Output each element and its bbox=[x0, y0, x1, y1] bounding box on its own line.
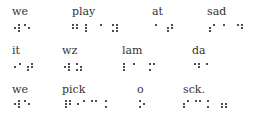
braille-dot-icon bbox=[221, 106, 223, 108]
braille-dot-icon bbox=[91, 100, 93, 102]
braille-dot-icon bbox=[28, 103, 30, 105]
braille-dot-icon bbox=[72, 27, 74, 29]
braille-dot-icon bbox=[19, 63, 21, 65]
braille-dot-icon bbox=[149, 63, 151, 65]
braille-dot-icon bbox=[18, 30, 20, 32]
word-label: play bbox=[72, 6, 95, 17]
braille-dot-icon bbox=[223, 24, 225, 26]
word-label: wz bbox=[62, 45, 77, 56]
braille-dot-icon bbox=[207, 100, 209, 102]
braille-dot-icon bbox=[241, 27, 243, 29]
braille-dot-icon bbox=[14, 27, 16, 29]
braille-dot-icon bbox=[183, 106, 185, 108]
word-label: we bbox=[12, 84, 28, 95]
braille-dot-icon bbox=[167, 27, 169, 29]
braille-dot-icon bbox=[27, 69, 29, 71]
braille-dot-icon bbox=[221, 103, 223, 105]
braille-dot-icon bbox=[76, 63, 78, 65]
braille-dot-icon bbox=[116, 30, 118, 32]
braille-dot-icon bbox=[195, 100, 197, 102]
braille-dot-icon bbox=[112, 30, 114, 32]
braille-dot-icon bbox=[65, 106, 67, 108]
braille-dot-icon bbox=[167, 30, 169, 32]
braille-dot-icon bbox=[76, 27, 78, 29]
braille-dot-icon bbox=[123, 63, 125, 65]
braille-dot-icon bbox=[116, 24, 118, 26]
braille-dot-icon bbox=[116, 27, 118, 29]
braille-dot-icon bbox=[80, 66, 82, 68]
word-label: o bbox=[137, 84, 144, 95]
braille-dot-icon bbox=[139, 106, 141, 108]
word-label: at bbox=[152, 6, 163, 17]
word-label: we bbox=[12, 6, 28, 17]
braille-dot-icon bbox=[27, 66, 29, 68]
braille-dot-icon bbox=[100, 24, 102, 26]
braille-dot-icon bbox=[28, 27, 30, 29]
braille-dot-icon bbox=[65, 100, 67, 102]
braille-dot-icon bbox=[24, 100, 26, 102]
braille-dot-icon bbox=[143, 103, 145, 105]
braille-dot-icon bbox=[149, 69, 151, 71]
braille-dot-icon bbox=[183, 103, 185, 105]
braille-dot-icon bbox=[206, 63, 208, 65]
braille-dot-icon bbox=[85, 27, 87, 29]
braille-dot-icon bbox=[68, 69, 70, 71]
braille-dot-icon bbox=[105, 106, 107, 108]
braille-dot-icon bbox=[85, 30, 87, 32]
braille-dot-icon bbox=[77, 103, 79, 105]
word-label: da bbox=[192, 45, 206, 56]
braille-dot-icon bbox=[14, 103, 16, 105]
braille-dot-icon bbox=[69, 100, 71, 102]
braille-dot-icon bbox=[155, 24, 157, 26]
braille-dot-icon bbox=[14, 66, 16, 68]
braille-dot-icon bbox=[171, 27, 173, 29]
braille-dot-icon bbox=[112, 24, 114, 26]
braille-dot-icon bbox=[153, 63, 155, 65]
braille-dot-icon bbox=[198, 66, 200, 68]
braille-dot-icon bbox=[76, 24, 78, 26]
braille-dot-icon bbox=[31, 66, 33, 68]
braille-dot-icon bbox=[194, 63, 196, 65]
braille-dot-icon bbox=[31, 63, 33, 65]
braille-dot-icon bbox=[123, 69, 125, 71]
braille-dot-icon bbox=[209, 30, 211, 32]
word-label: pick bbox=[62, 84, 85, 95]
braille-dot-icon bbox=[65, 103, 67, 105]
braille-dot-icon bbox=[133, 63, 135, 65]
word-label: it bbox=[12, 45, 20, 56]
braille-dot-icon bbox=[18, 27, 20, 29]
braille-dot-icon bbox=[69, 103, 71, 105]
braille-dot-icon bbox=[83, 100, 85, 102]
word-label: lam bbox=[122, 45, 143, 56]
braille-dot-icon bbox=[18, 103, 20, 105]
braille-dot-icon bbox=[198, 63, 200, 65]
braille-dot-icon bbox=[237, 24, 239, 26]
braille-dot-icon bbox=[18, 100, 20, 102]
braille-dot-icon bbox=[139, 100, 141, 102]
braille-dot-icon bbox=[209, 27, 211, 29]
braille-dot-icon bbox=[123, 66, 125, 68]
braille-dot-icon bbox=[80, 69, 82, 71]
braille-dot-icon bbox=[105, 100, 107, 102]
braille-dot-icon bbox=[68, 63, 70, 65]
braille-dot-icon bbox=[225, 106, 227, 108]
braille-dot-icon bbox=[199, 100, 201, 102]
braille-dot-icon bbox=[85, 24, 87, 26]
braille-dot-icon bbox=[76, 69, 78, 71]
braille-dot-icon bbox=[95, 100, 97, 102]
braille-dot-icon bbox=[225, 103, 227, 105]
braille-dot-icon bbox=[64, 66, 66, 68]
word-label: sad bbox=[207, 6, 226, 17]
braille-dot-icon bbox=[207, 106, 209, 108]
braille-dot-icon bbox=[72, 24, 74, 26]
braille-dot-icon bbox=[18, 24, 20, 26]
braille-dot-icon bbox=[187, 100, 189, 102]
braille-dot-icon bbox=[213, 24, 215, 26]
braille-dot-icon bbox=[68, 66, 70, 68]
braille-dot-icon bbox=[18, 106, 20, 108]
word-label: sck. bbox=[183, 84, 205, 95]
braille-dot-icon bbox=[171, 24, 173, 26]
braille-dot-icon bbox=[241, 24, 243, 26]
braille-dot-icon bbox=[24, 24, 26, 26]
